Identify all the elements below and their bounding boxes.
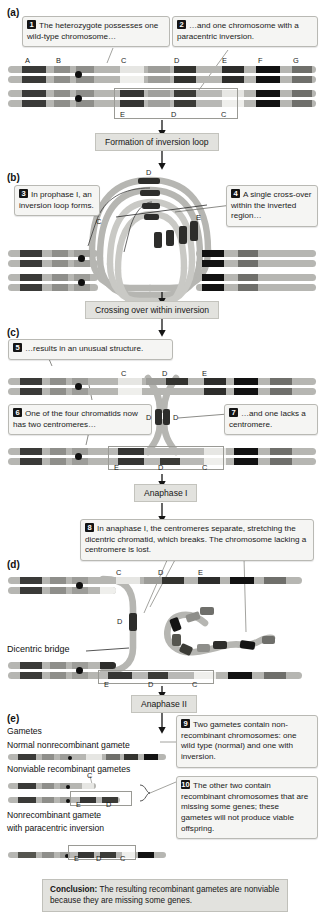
gene-label-a-inv-D: D: [171, 110, 176, 119]
acentric-band-3: [179, 643, 194, 656]
gene-label-e-r2-D: D: [106, 800, 111, 809]
gene-label-d-D: D: [158, 568, 163, 577]
gene-label-a-C: C: [121, 56, 126, 65]
gamete-chromosome-recombinant-1: [8, 783, 96, 789]
callout-4: 4A single cross-over within the inverted…: [226, 185, 318, 227]
gene-label-a-inv-C: C: [221, 110, 226, 119]
chromatid-wildtype-2: [8, 76, 316, 83]
gamete-label-normal: Normal nonrecombinant gamete: [7, 740, 130, 750]
callout-number: 10: [181, 780, 190, 789]
stage-anaphase-i: Anaphase I: [134, 484, 197, 502]
centromere-c-bottom: [75, 453, 82, 460]
callout-3: 3In prophase I, an inversion loop forms.: [14, 185, 100, 216]
loop-band-D1: [138, 178, 160, 184]
callout-text: …results in an unusual structure.: [25, 344, 143, 353]
loop-band-E2: [166, 230, 174, 246]
callout-text: …and one chromosome with a paracentric i…: [177, 21, 299, 41]
gene-label-a-B: B: [56, 56, 61, 65]
callout-text: In anaphase I, the centromeres separate,…: [85, 524, 306, 554]
panel-letter-b: (b): [7, 172, 20, 183]
callout-1: 1The heterozygote possesses one wild-typ…: [22, 16, 170, 47]
acentric-band-7: [200, 607, 214, 615]
stage-anaphase-ii: Anaphase II: [131, 695, 197, 713]
acentric-band-1: [169, 617, 182, 632]
panel-letter-d: (d): [7, 559, 20, 570]
gene-label-e-recomb-C: C: [87, 771, 92, 780]
chromatid-b-right-4: [196, 284, 316, 291]
callout-text: The heterozygote possesses one wild-type…: [27, 21, 158, 41]
gene-label-b-C: C: [96, 217, 101, 226]
gene-label-c-E: E: [202, 369, 207, 378]
acentric-band-9: [262, 636, 275, 644]
gene-label-c-bridge-D2: D: [173, 413, 178, 422]
callout-number: 3: [19, 189, 28, 198]
conclusion-box: Conclusion: The resulting recombinant ga…: [42, 879, 288, 912]
gamete-label-inversion-line2: with paracentric inversion: [7, 823, 104, 833]
callout-number: 9: [181, 719, 190, 728]
callout-5: 5…results in an unusual structure.: [8, 339, 173, 360]
gene-label-d-inv-D: D: [148, 680, 153, 689]
chromatid-b-right-1: [196, 250, 316, 257]
gene-label-a-F: F: [258, 56, 263, 65]
chromatid-wildtype-1: [8, 66, 316, 73]
acentric-band-2: [172, 634, 181, 646]
chromatid-c-top-1: [8, 378, 316, 385]
chromatid-b-left-2: [8, 260, 98, 267]
loop-band-E1: [154, 232, 162, 248]
callout-text: …and one lacks a centromere.: [229, 409, 306, 429]
gene-label-c-inv-D: D: [158, 463, 163, 472]
gene-label-b-D: D: [146, 168, 151, 177]
callout-text: One of the four chromatids now has two c…: [13, 409, 138, 429]
centromere-b-top: [78, 255, 85, 262]
chromatid-d-bottom-1: [8, 662, 116, 669]
centromere-d-bottom: [76, 667, 83, 674]
chromatid-b-right-3: [196, 274, 316, 281]
dicentric-bridge-label: Dicentric bridge: [7, 644, 70, 654]
centromere-gamete-recombinant-1: [66, 785, 70, 789]
chromatid-d-top-2: [8, 587, 116, 594]
centromere-gamete-normal: [68, 756, 72, 760]
chromatid-b-right-2: [196, 260, 316, 267]
callout-number: 2: [177, 20, 186, 29]
loop-band-D2: [140, 190, 160, 196]
gene-label-d-inv-E: E: [104, 680, 109, 689]
stage-crossing-over-within-inversion: Crossing over within inversion: [85, 301, 219, 319]
chromatid-d-top-1: [8, 577, 302, 584]
callout-text: In prophase I, an inversion loop forms.: [19, 190, 94, 210]
gene-label-a-D: D: [174, 56, 179, 65]
gene-label-a-G: G: [293, 56, 299, 65]
acentric-band-8: [240, 640, 256, 650]
loop-band-E4: [190, 221, 198, 241]
gene-label-c-inv-C: C: [202, 463, 207, 472]
acentric-band-4: [197, 644, 210, 652]
callout-text: Two gametes contain non-recombinant chro…: [181, 720, 297, 761]
centromere-b-bottom: [78, 279, 85, 286]
centromere-wildtype: [75, 71, 82, 78]
gene-label-d-bridge-D: D: [117, 617, 122, 626]
callout-8: 8In anaphase I, the centromeres separate…: [80, 519, 314, 561]
callout-text: A single cross-over within the inverted …: [231, 190, 311, 220]
gamete-label-nonviable: Nonviable recombinant gametes: [7, 764, 130, 774]
centromere-inverted: [75, 95, 82, 102]
callout-7: 7…and one lacks a centromere.: [224, 404, 318, 435]
loop-band-E3: [179, 226, 187, 244]
gene-label-a-inv-E: E: [120, 110, 125, 119]
gene-label-d-inv-C: C: [192, 680, 197, 689]
callout-number: 6: [13, 408, 22, 417]
junction-band-D-left: [155, 409, 162, 425]
panel-letter-a: (a): [7, 7, 19, 18]
gene-label-e-r2-E: E: [76, 800, 81, 809]
loop-band-D4: [144, 214, 159, 220]
gametes-heading: Gametes: [7, 726, 42, 736]
loop-band-D3: [142, 203, 160, 209]
gamete-chromosome-normal: [8, 754, 166, 760]
gene-label-e-inv-E: E: [74, 854, 79, 863]
panel-letter-e: (e): [7, 713, 19, 724]
callout-number: 1: [27, 20, 36, 29]
figure-root: (a) 1The heterozygote possesses one wild…: [0, 0, 324, 920]
callout-6: 6One of the four chromatids now has two …: [8, 404, 152, 435]
callout-9: 9Two gametes contain non-recombinant chr…: [176, 715, 318, 768]
callout-2: 2…and one chromosome with a paracentric …: [172, 16, 318, 47]
centromere-c-top: [75, 383, 82, 390]
callout-10: 10The other two contain recombinant chro…: [176, 776, 318, 839]
